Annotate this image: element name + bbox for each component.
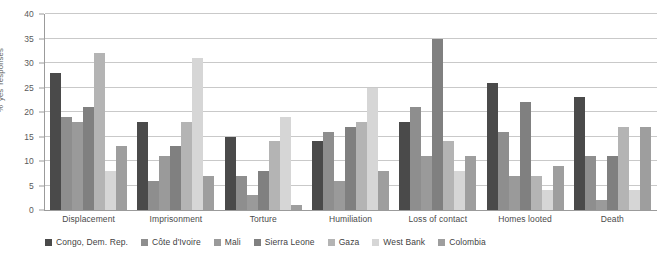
- bar: [94, 53, 105, 210]
- bar: [236, 176, 247, 210]
- y-axis: 0510152025303540: [0, 0, 44, 211]
- bar-group: [394, 14, 481, 210]
- bar: [312, 141, 323, 210]
- bar: [574, 97, 585, 210]
- bar: [640, 127, 651, 210]
- bar: [542, 190, 553, 210]
- legend-item[interactable]: Côte d'Ivoire: [141, 237, 201, 247]
- bar-chart-figure: % 'yes' responses 0510152025303540 Displ…: [0, 0, 666, 264]
- x-axis-tick-label: Displacement: [45, 214, 132, 224]
- bar: [291, 205, 302, 210]
- bar: [345, 127, 356, 210]
- legend-item-label: Sierra Leone: [265, 237, 315, 247]
- bar: [410, 107, 421, 210]
- bar: [170, 146, 181, 210]
- bar: [629, 190, 640, 210]
- bar: [61, 117, 72, 210]
- bar: [83, 107, 94, 210]
- bar: [181, 122, 192, 210]
- bar: [585, 156, 596, 210]
- bar-group: [220, 14, 307, 210]
- x-axis: DisplacementImprisonmentTortureHumiliati…: [45, 214, 656, 224]
- bar: [159, 156, 170, 210]
- bar: [50, 73, 61, 210]
- bar: [487, 83, 498, 210]
- bar-group: [569, 14, 656, 210]
- bar-group: [132, 14, 219, 210]
- bar: [432, 39, 443, 211]
- bar: [399, 122, 410, 210]
- bar: [148, 181, 159, 210]
- bar: [531, 176, 542, 210]
- bar: [498, 132, 509, 210]
- legend-item-label: Mali: [225, 237, 241, 247]
- bar: [553, 166, 564, 210]
- legend-item-label: Colombia: [449, 237, 486, 247]
- legend-item-label: Côte d'Ivoire: [152, 237, 201, 247]
- bar: [269, 141, 280, 210]
- legend-item-label: Congo, Dem. Rep.: [56, 237, 128, 247]
- y-axis-tick-label: 20: [24, 107, 34, 117]
- x-axis-tick-label: Humiliation: [307, 214, 394, 224]
- legend-swatch-icon: [328, 239, 335, 246]
- bar-groups: [45, 14, 656, 210]
- y-axis-tick-label: 30: [24, 58, 34, 68]
- y-axis-tick-label: 15: [24, 132, 34, 142]
- legend-item[interactable]: Mali: [214, 237, 241, 247]
- bar: [378, 171, 389, 210]
- bar: [367, 88, 378, 211]
- legend-item[interactable]: West Bank: [372, 237, 425, 247]
- bar: [356, 122, 367, 210]
- bar: [454, 171, 465, 210]
- bar: [280, 117, 291, 210]
- bar: [225, 137, 236, 211]
- bar: [247, 195, 258, 210]
- bar: [137, 122, 148, 210]
- x-axis-tick-label: Torture: [220, 214, 307, 224]
- chart-legend: Congo, Dem. Rep.Côte d'IvoireMaliSierra …: [45, 237, 499, 247]
- legend-item-label: West Bank: [383, 237, 425, 247]
- bar: [596, 200, 607, 210]
- bar: [192, 58, 203, 210]
- bar: [520, 102, 531, 210]
- legend-item[interactable]: Gaza: [328, 237, 360, 247]
- bar: [323, 132, 334, 210]
- x-axis-tick-label: Loss of contact: [394, 214, 481, 224]
- bar: [258, 171, 269, 210]
- bar: [443, 141, 454, 210]
- bar: [421, 156, 432, 210]
- y-axis-tick-label: 10: [24, 156, 34, 166]
- legend-item[interactable]: Colombia: [438, 237, 486, 247]
- bar: [465, 156, 476, 210]
- legend-swatch-icon: [438, 239, 445, 246]
- bar-group: [481, 14, 568, 210]
- y-axis-tick-label: 35: [24, 34, 34, 44]
- legend-item-label: Gaza: [339, 237, 360, 247]
- bar: [607, 156, 618, 210]
- x-axis-tick-label: Homes looted: [481, 214, 568, 224]
- legend-item[interactable]: Sierra Leone: [254, 237, 315, 247]
- bar: [334, 181, 345, 210]
- legend-swatch-icon: [141, 239, 148, 246]
- legend-swatch-icon: [214, 239, 221, 246]
- bar-group: [45, 14, 132, 210]
- y-axis-tick-label: 25: [24, 83, 34, 93]
- x-axis-tick-label: Death: [569, 214, 656, 224]
- bar: [72, 122, 83, 210]
- y-axis-tick-label: 0: [29, 205, 34, 215]
- legend-swatch-icon: [372, 239, 379, 246]
- legend-swatch-icon: [254, 239, 261, 246]
- y-axis-tick-label: 5: [29, 181, 34, 191]
- bar: [203, 176, 214, 210]
- legend-item[interactable]: Congo, Dem. Rep.: [45, 237, 128, 247]
- y-axis-tick-label: 40: [24, 9, 34, 19]
- x-axis-tick-label: Imprisonment: [132, 214, 219, 224]
- bar: [105, 171, 116, 210]
- bar: [116, 146, 127, 210]
- legend-swatch-icon: [45, 239, 52, 246]
- bar: [509, 176, 520, 210]
- bar: [618, 127, 629, 210]
- bar-group: [307, 14, 394, 210]
